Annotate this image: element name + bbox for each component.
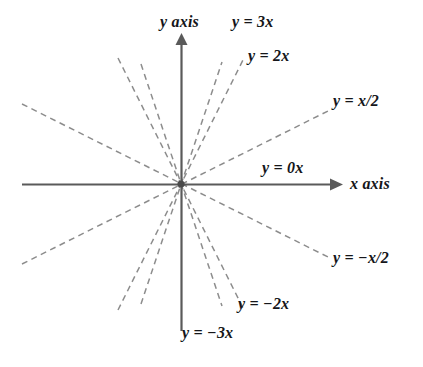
origin-marker (177, 180, 184, 187)
y-axis-label-text: y axis (160, 13, 199, 30)
x-axis-label-text: x axis (350, 175, 390, 192)
x-axis-arrowhead (330, 179, 343, 191)
label-y-equals-2x-text: y = 2x (248, 47, 289, 64)
label-y-equals-negative-2x: y = −2x (238, 296, 289, 312)
label-y-equals-3x: y = 3x (232, 14, 273, 30)
label-y-equals-3x-text: y = 3x (232, 13, 273, 30)
label-y-equals-0x-text: y = 0x (262, 159, 303, 176)
label-y-equals-negative-2x-text: y = −2x (238, 295, 289, 312)
y-axis-arrowhead (176, 33, 188, 45)
label-y-equals-0x: y = 0x (262, 160, 303, 176)
figure-root: y axis x axis y = 3x y = 2x y = x/2 y = … (0, 0, 423, 367)
label-y-equals-negative-3x-text: y = −3x (182, 324, 233, 341)
label-y-equals-negative-x-over-2-text: y = −x/2 (333, 249, 389, 266)
line-y-equals-negative-x-over-2 (22, 104, 328, 257)
line-y-equals-x-over-2 (22, 111, 328, 264)
label-y-equals-x-over-2: y = x/2 (333, 93, 379, 109)
x-axis-label: x axis (350, 176, 390, 192)
label-y-equals-negative-x-over-2: y = −x/2 (333, 250, 389, 266)
label-y-equals-x-over-2-text: y = x/2 (333, 92, 379, 109)
label-y-equals-negative-3x: y = −3x (182, 325, 233, 341)
label-y-equals-2x: y = 2x (248, 48, 289, 64)
y-axis-label: y axis (160, 14, 199, 30)
